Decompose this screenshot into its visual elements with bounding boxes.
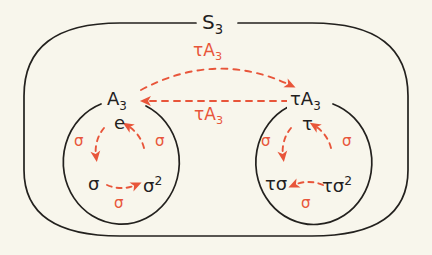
coset-map-lower-label: τA3 bbox=[194, 106, 223, 127]
left-cycle-label-bottom: σ bbox=[114, 196, 124, 211]
coset-map-upper-arc bbox=[141, 69, 290, 90]
left-cycle-label-bottom-text: σ bbox=[114, 194, 124, 212]
coset-map-lower-label-subscript: 3 bbox=[216, 114, 223, 127]
left-element-sigma-text: σ bbox=[88, 173, 99, 194]
right-element-tau-sigma: τσ bbox=[265, 175, 287, 193]
right-element-tau: τ bbox=[302, 115, 313, 133]
left-cycle-label-right: σ bbox=[155, 134, 165, 149]
left-cycle-arrows bbox=[96, 126, 144, 188]
left-element-sigma-squared-text: σ bbox=[143, 175, 154, 196]
coset-map-lower-label-prefix: τ bbox=[194, 104, 204, 124]
right-coset-label-subscript: 3 bbox=[313, 99, 321, 113]
right-cycle-label-left-text: σ bbox=[261, 132, 271, 150]
left-coset-label: A3 bbox=[104, 90, 130, 112]
right-cycle-label-bottom-text: σ bbox=[301, 194, 311, 212]
coset-map-upper-label: τA3 bbox=[193, 42, 222, 63]
coset-diagram: S3 τA3 τA3 A3 τA3 e σ σ2 σ σ σ τ τσ bbox=[0, 0, 432, 255]
right-cycle-label-right: σ bbox=[342, 134, 352, 149]
left-element-sigma-squared-superscript: 2 bbox=[154, 174, 162, 188]
right-element-tau-text: τ bbox=[302, 113, 313, 134]
left-cycle-label-left-text: σ bbox=[74, 132, 84, 150]
outer-set-label: S3 bbox=[199, 12, 226, 36]
right-coset-label-text: A bbox=[301, 88, 313, 109]
right-coset-boundary bbox=[256, 104, 372, 225]
diagram-canvas bbox=[0, 0, 432, 255]
coset-map-upper-label-text: A bbox=[203, 40, 215, 60]
left-element-sigma: σ bbox=[88, 175, 99, 193]
left-element-identity-text: e bbox=[114, 112, 125, 133]
right-cycle-label-bottom: σ bbox=[301, 196, 311, 211]
left-coset-label-text: A bbox=[107, 88, 119, 109]
left-coset-label-subscript: 3 bbox=[119, 99, 127, 113]
left-element-sigma-squared: σ2 bbox=[143, 175, 162, 195]
right-element-tau-sigma-squared-text: τσ bbox=[322, 175, 344, 196]
coset-map-upper-label-subscript: 3 bbox=[215, 50, 222, 63]
right-element-tau-sigma-squared-superscript: 2 bbox=[344, 174, 352, 188]
left-element-identity: e bbox=[114, 114, 125, 132]
outer-set-label-subscript: 3 bbox=[215, 22, 223, 37]
right-coset-label: τA3 bbox=[287, 90, 324, 112]
left-cycle-label-right-text: σ bbox=[155, 132, 165, 150]
right-element-tau-sigma-text: τσ bbox=[265, 173, 287, 194]
right-cycle-label-left: σ bbox=[261, 134, 271, 149]
outer-set-label-text: S bbox=[202, 10, 215, 34]
coset-map-upper-label-prefix: τ bbox=[193, 40, 203, 60]
right-element-tau-sigma-squared: τσ2 bbox=[322, 175, 352, 195]
right-cycle-label-right-text: σ bbox=[342, 132, 352, 150]
coset-map-lower-label-text: A bbox=[204, 104, 216, 124]
right-coset-label-prefix: τ bbox=[290, 88, 301, 109]
left-cycle-label-left: σ bbox=[74, 134, 84, 149]
